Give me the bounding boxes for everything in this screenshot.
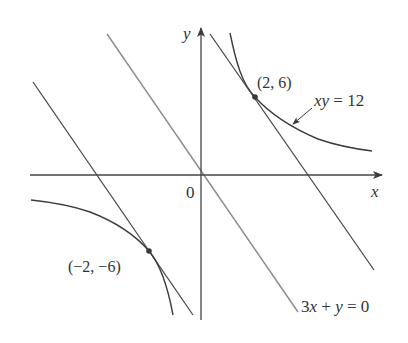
point-neg2-neg6 xyxy=(146,248,152,254)
curve-equation-label: xy = 12 xyxy=(313,91,364,110)
reference-line-equation-label: 3x + y = 0 xyxy=(301,297,369,316)
tangent-line-lower xyxy=(33,82,193,315)
hyperbola-tangent-diagram: y x 0 (2, 6) (−2, −6) xy = 12 3x + y = 0 xyxy=(0,0,408,343)
curve-equation-rhs: 12 xyxy=(347,91,364,110)
y-axis-label: y xyxy=(181,24,191,43)
ref-eq-coef: 3 xyxy=(301,297,310,316)
ref-eq-y: y xyxy=(333,297,343,316)
tangent-line-upper xyxy=(210,34,374,270)
curve-equation-eq: = xyxy=(329,91,347,110)
ref-eq-eq: = xyxy=(343,297,361,316)
ref-eq-rhs: 0 xyxy=(361,297,370,316)
point-2-6 xyxy=(252,94,258,100)
ref-eq-plus: + xyxy=(317,297,335,316)
curve-label-pointer-arrow xyxy=(293,108,312,124)
point-label-neg2-neg6: (−2, −6) xyxy=(68,258,121,276)
origin-label: 0 xyxy=(186,183,195,202)
curve-equation-lhs: xy xyxy=(313,91,330,110)
point-label-2-6: (2, 6) xyxy=(257,74,292,92)
x-axis-label: x xyxy=(370,182,379,201)
